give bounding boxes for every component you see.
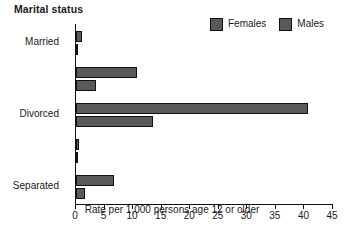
y-tick-label: Married [0,37,59,47]
bar-group: Divorced [76,60,333,96]
plot-area: MarriedDivorcedSeparatedWidowedNever mar… [75,24,333,204]
bar-group: Widowed [76,132,333,168]
bar-males-married [76,44,78,55]
bar-females-separated [76,103,308,114]
chart-title: Marital status [14,3,83,15]
bar-females-married [76,31,82,42]
bar-females-never-married [76,175,114,186]
y-tick-label: Separated [0,181,59,191]
marital-status-bar-chart: Marital status Females Males MarriedDivo… [0,0,344,244]
bar-males-divorced [76,80,96,91]
bar-males-widowed [76,152,78,163]
bar-group: Married [76,24,333,60]
bar-group: Separated [76,96,333,132]
bar-females-divorced [76,67,137,78]
bar-males-never-married [76,188,85,199]
x-axis-title: Rate per 1,000 persons age 12 or older [0,204,344,215]
bar-group: Never married [76,168,333,204]
y-tick-label: Divorced [0,109,59,119]
bar-females-widowed [76,139,79,150]
bar-males-separated [76,116,153,127]
